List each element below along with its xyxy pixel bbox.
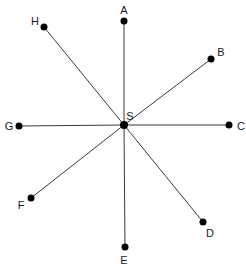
ray-s-g <box>19 125 124 126</box>
label-e: E <box>120 254 127 266</box>
point-f <box>28 195 35 202</box>
point-d <box>200 219 207 226</box>
ray-s-e <box>124 125 125 247</box>
label-f: F <box>18 199 25 211</box>
ray-diagram: ABCDEFGHS <box>0 0 246 268</box>
label-c: C <box>237 120 245 132</box>
ray-s-f <box>31 125 124 198</box>
label-d: D <box>206 227 214 239</box>
rays-group <box>19 21 229 247</box>
point-center-s <box>120 121 128 129</box>
label-h: H <box>31 15 39 27</box>
label-g: G <box>5 120 14 132</box>
label-b: B <box>217 46 224 58</box>
ray-s-h <box>44 27 124 125</box>
ray-s-b <box>124 59 211 125</box>
point-c <box>226 122 233 129</box>
label-a: A <box>120 4 128 16</box>
point-e <box>122 244 129 251</box>
label-center-s: S <box>126 110 133 122</box>
point-g <box>16 123 23 130</box>
point-a <box>121 18 128 25</box>
point-b <box>208 56 215 63</box>
ray-s-d <box>124 125 203 222</box>
point-h <box>41 24 48 31</box>
